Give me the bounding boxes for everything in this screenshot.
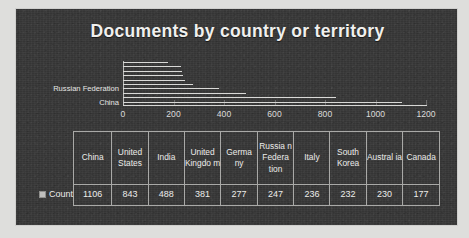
legend-label: Count xyxy=(49,189,73,201)
table-cell-count: 277 xyxy=(221,185,258,206)
y-axis-tick-label: China xyxy=(99,98,119,107)
table-cell-count: 236 xyxy=(294,185,330,206)
table-cell-count: 488 xyxy=(148,185,184,206)
x-axis-tick-label: 0 xyxy=(121,109,126,119)
x-axis-tick-mark xyxy=(426,100,427,106)
bars-container xyxy=(123,61,426,105)
bar xyxy=(123,71,182,72)
table-column-header: Canada xyxy=(403,132,440,185)
legend-entry[interactable]: Count xyxy=(37,185,74,206)
bar xyxy=(123,102,402,103)
x-axis-tick-mark xyxy=(123,100,124,106)
table-column-header: Austral ia xyxy=(366,132,403,185)
count-legend-swatch-icon xyxy=(39,191,46,198)
table-row: Count 1106843488381277247236232230177 xyxy=(37,185,440,206)
table-cell-count: 381 xyxy=(184,185,221,206)
chart-title: Documents by country or territory xyxy=(16,21,459,42)
table-column-header: China xyxy=(74,132,112,185)
bar xyxy=(123,84,193,85)
bar xyxy=(123,62,168,63)
table-cell-count: 247 xyxy=(257,185,294,206)
table-header-row: ChinaUnited StatesIndiaUnited Kingdo mGe… xyxy=(37,132,440,185)
x-axis-tick-mark xyxy=(325,100,326,106)
table-cell-count: 177 xyxy=(403,185,440,206)
table-column-header: United States xyxy=(112,132,148,185)
bar xyxy=(123,80,185,81)
table-corner-cell xyxy=(37,132,74,185)
table-column-header: United Kingdo m xyxy=(184,132,221,185)
table-cell-count: 1106 xyxy=(74,185,112,206)
table-column-header: Russia n Federa tion xyxy=(257,132,294,185)
plot-area: Russian FederationChina 0200400600800100… xyxy=(16,53,459,125)
table-column-header: Italy xyxy=(294,132,330,185)
chart-canvas: Documents by country or territory Russia… xyxy=(15,8,458,226)
x-axis-tick-label: 800 xyxy=(318,109,332,119)
x-axis-tick-label: 200 xyxy=(166,109,180,119)
x-axis-tick-label: 1000 xyxy=(366,109,385,119)
x-axis-tick-label: 1200 xyxy=(416,109,435,119)
x-axis-tick-mark xyxy=(376,100,377,106)
bar xyxy=(123,75,183,76)
table-column-header: Germa ny xyxy=(221,132,258,185)
bar xyxy=(123,97,336,98)
x-axis-tick-label: 400 xyxy=(217,109,231,119)
table-cell-count: 843 xyxy=(112,185,148,206)
bar xyxy=(123,66,181,67)
chart-image-frame: Documents by country or territory Russia… xyxy=(0,0,469,238)
y-axis-tick-label: Russian Federation xyxy=(53,84,119,93)
bar xyxy=(123,88,219,89)
table-cell-count: 230 xyxy=(366,185,403,206)
data-table: ChinaUnited StatesIndiaUnited Kingdo mGe… xyxy=(37,131,440,206)
x-axis-tick-mark xyxy=(224,100,225,106)
table-cell-count: 232 xyxy=(330,185,366,206)
bar xyxy=(123,93,246,94)
table-column-header: India xyxy=(148,132,184,185)
x-axis-tick-mark xyxy=(275,100,276,106)
table-column-header: South Korea xyxy=(330,132,366,185)
x-axis-tick-mark xyxy=(174,100,175,106)
x-axis-tick-label: 600 xyxy=(267,109,281,119)
